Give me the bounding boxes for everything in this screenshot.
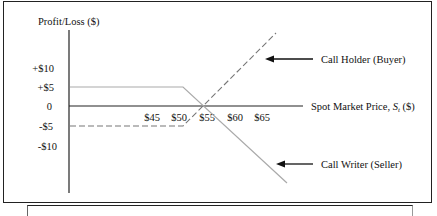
x-tick-60: $60 — [227, 112, 243, 123]
payoff-diagram: Profit/Loss ($) +$10 +$5 0 -$5 -$10 $45 … — [0, 0, 437, 216]
y-axis-label: Profit/Loss ($) — [38, 16, 100, 28]
call-writer-label: Call Writer (Seller) — [321, 159, 403, 171]
y-tick-zero: 0 — [47, 101, 52, 112]
y-tick-minus-10: -$10 — [38, 141, 57, 152]
x-tick-45: $45 — [144, 112, 160, 123]
call-holder-label: Call Holder (Buyer) — [321, 54, 406, 66]
call-writer-payoff-line — [70, 87, 287, 183]
call-holder-arrow-icon — [265, 56, 274, 63]
call-writer-arrow-icon — [276, 161, 285, 168]
x-tick-65: $65 — [254, 112, 270, 123]
x-tick-50: $50 — [171, 112, 187, 123]
y-tick-plus-10: +$10 — [32, 63, 54, 74]
y-tick-minus-5: -$5 — [39, 121, 53, 132]
x-axis-label: Spot Market Price, St ($) — [311, 101, 415, 114]
y-tick-plus-5: +$5 — [38, 82, 54, 93]
